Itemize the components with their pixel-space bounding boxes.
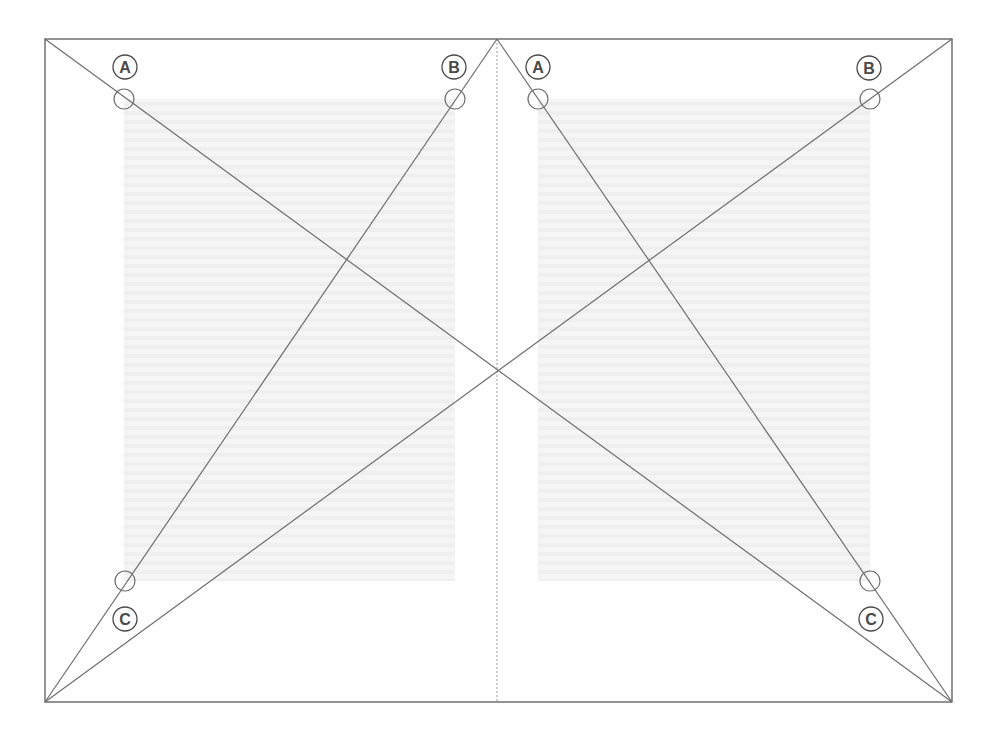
right-label-b: B — [857, 56, 881, 80]
label-letter: B — [863, 60, 875, 77]
right-label-a: A — [526, 55, 550, 79]
left-text-block — [124, 99, 455, 581]
label-letter: A — [532, 59, 544, 76]
page-construction-diagram: ABCABC — [0, 0, 1000, 737]
right-label-c: C — [859, 607, 883, 631]
left-label-b: B — [442, 55, 466, 79]
left-label-a: A — [113, 55, 137, 79]
label-letter: B — [448, 59, 460, 76]
left-label-c: C — [113, 607, 137, 631]
label-letter: C — [865, 611, 877, 628]
label-letter: C — [119, 611, 131, 628]
label-letter: A — [119, 59, 131, 76]
